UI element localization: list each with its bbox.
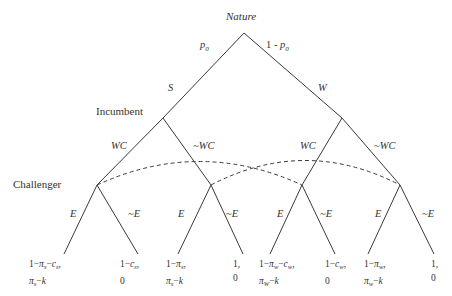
action-label-E-1: E (70, 208, 76, 220)
action-label-E-4: E (375, 208, 381, 220)
payoff-S-WC-notE: 1−cs, 0 (120, 257, 139, 288)
action-label-notE-3: ~E (320, 208, 332, 220)
payoff-incumbent: 1−πw−cw, (259, 257, 295, 274)
incumbent-label: Incumbent (96, 105, 143, 117)
payoff-challenger: 0 (325, 274, 346, 288)
information-set-notWC (211, 161, 400, 186)
branch-E-4 (368, 185, 400, 254)
payoff-incumbent: 1, (431, 257, 438, 271)
payoff-challenger: 0 (233, 271, 240, 285)
p-subscript: 0 (205, 45, 209, 53)
action-label-notE-1: ~E (128, 208, 140, 220)
information-set-WC (97, 162, 302, 186)
payoff-W-notWC-notE: 1, 0 (431, 257, 438, 285)
branch-S-WC (97, 118, 163, 185)
action-label-W-notWC: ~WC (374, 140, 395, 152)
action-label-E-3: E (277, 208, 283, 220)
one-minus: 1 - (266, 39, 280, 50)
payoff-incumbent: 1−πs, (166, 257, 186, 274)
payoff-challenger: πw−k (364, 274, 386, 291)
p-subscript: 0 (285, 45, 289, 53)
payoff-challenger: πs−k (29, 274, 61, 291)
nature-label: Nature (226, 10, 256, 22)
payoff-challenger: πW−k (259, 274, 295, 291)
payoff-W-WC-E: 1−πw−cw, πW−k (259, 257, 295, 291)
payoff-S-WC-E: 1−πs−cs, πs−k (29, 257, 61, 291)
action-label-notE-2: ~E (226, 208, 238, 220)
branch-label-S: S (168, 82, 173, 94)
payoff-W-notWC-E: 1−πw, πw−k (364, 257, 386, 291)
action-label-E-2: E (178, 208, 184, 220)
payoff-S-notWC-E: 1−πs, πs−k (166, 257, 186, 291)
action-label-W-WC: WC (300, 140, 316, 152)
payoff-W-WC-notE: 1−cw, 0 (325, 257, 346, 288)
payoff-incumbent: 1−πs−cs, (29, 257, 61, 274)
payoff-challenger: πs−k (166, 274, 186, 291)
branch-E-3 (270, 185, 302, 254)
branch-E-1 (64, 185, 97, 254)
prob-one-minus-p0-label: 1 - p0 (266, 39, 289, 55)
action-label-notE-4: ~E (422, 208, 434, 220)
payoff-incumbent: 1−cw, (325, 257, 346, 274)
payoff-challenger: 0 (431, 271, 438, 285)
payoff-incumbent: 1−cs, (120, 257, 139, 274)
payoff-incumbent: 1−πw, (364, 257, 386, 274)
payoff-challenger: 0 (120, 274, 139, 288)
payoff-S-notWC-notE: 1, 0 (233, 257, 240, 285)
action-label-S-WC: WC (111, 140, 127, 152)
branch-label-W: W (318, 82, 327, 94)
payoff-incumbent: 1, (233, 257, 240, 271)
challenger-label: Challenger (13, 178, 61, 190)
prob-p0-label: p0 (200, 39, 209, 55)
action-label-S-notWC: ~WC (193, 140, 214, 152)
branch-W (244, 33, 342, 118)
